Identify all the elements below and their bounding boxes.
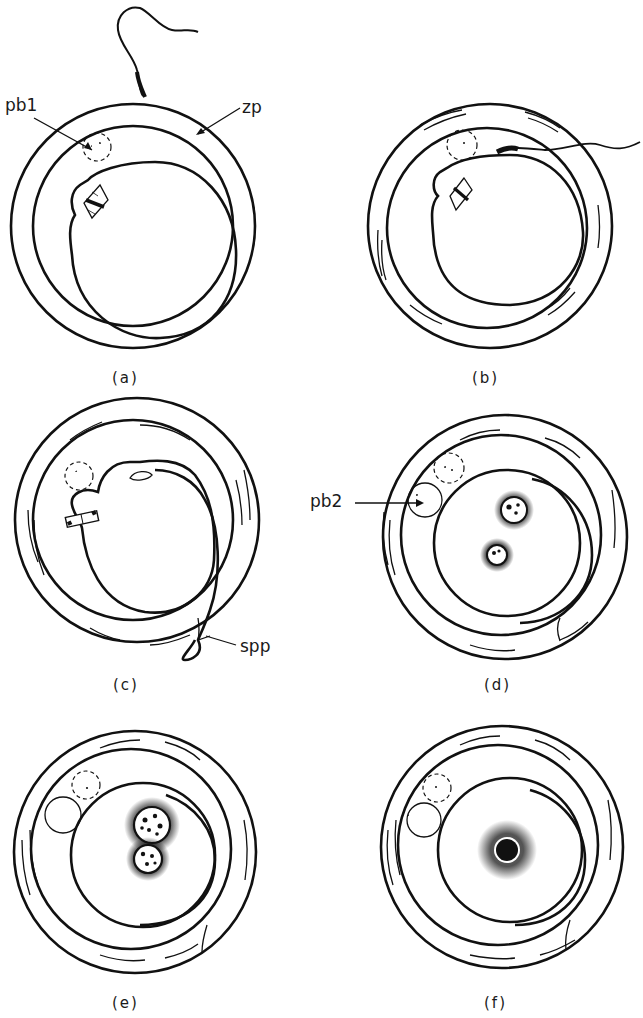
oocyte-cytoplasm (432, 155, 583, 305)
sperm-head (497, 148, 518, 152)
pronucleus-male (494, 490, 534, 530)
sperm-tail (498, 142, 640, 152)
syngamy-chromosomes (477, 820, 537, 880)
panel-a: pb1 zp (a) (5, 7, 262, 387)
zona-pellucida-inner (33, 126, 233, 326)
polar-body-1-chromatin (432, 783, 442, 793)
sperm-penetration-path (558, 618, 560, 641)
sperm-tail (118, 7, 198, 96)
sperm-penetration-path (202, 925, 207, 952)
polar-body-1-chromatin (456, 139, 468, 151)
panel-c: spp (c) (15, 398, 270, 694)
polar-body-1-chromatin (444, 463, 454, 473)
polar-body-2-chromatin (50, 804, 58, 812)
panel-e: (e) (14, 731, 256, 1012)
polar-body-1-chromatin (91, 141, 103, 153)
caption-d: (d) (484, 676, 511, 694)
fertilization-cone (130, 472, 152, 481)
caption-e: (e) (112, 994, 139, 1012)
caption-f: (f) (484, 994, 507, 1012)
panel-f: (f) (381, 726, 623, 1012)
panel-d: pb2 (d) (310, 415, 627, 694)
arrowhead-icon (416, 499, 424, 507)
zp-pointer (198, 108, 240, 134)
caption-b: (b) (472, 369, 499, 387)
polar-body-1-chromatin (73, 470, 85, 482)
polar-body-2-chromatin (408, 812, 416, 820)
meiotic-spindle-icon (84, 185, 108, 218)
pronucleus-female (126, 837, 170, 881)
caption-a: (a) (112, 369, 139, 387)
polar-body-2 (407, 803, 441, 837)
zona-pellucida-outer (15, 398, 259, 642)
arrowhead-icon (196, 128, 205, 135)
zona-pellucida-inner (387, 128, 587, 328)
fertilization-diagram: pb1 zp (a) (b) (0, 0, 643, 1018)
polar-body-2 (45, 797, 81, 833)
label-pb2: pb2 (310, 491, 342, 511)
polar-body-2-chromatin (410, 490, 418, 498)
caption-c: (c) (113, 676, 139, 694)
label-spp: spp (240, 636, 270, 656)
polar-body-1-chromatin (81, 780, 91, 790)
polar-body-2 (408, 483, 442, 517)
anaphase-spindle-icon (65, 511, 98, 527)
pronucleus-female (480, 538, 514, 572)
zona-pellucida-outer (368, 104, 612, 348)
spp-pointer (206, 636, 236, 645)
panel-b: (b) (368, 104, 640, 387)
label-zp: zp (242, 97, 262, 117)
meiotic-spindle-icon (450, 178, 472, 210)
oocyte-cytoplasm (70, 162, 236, 338)
label-pb1: pb1 (5, 95, 37, 115)
